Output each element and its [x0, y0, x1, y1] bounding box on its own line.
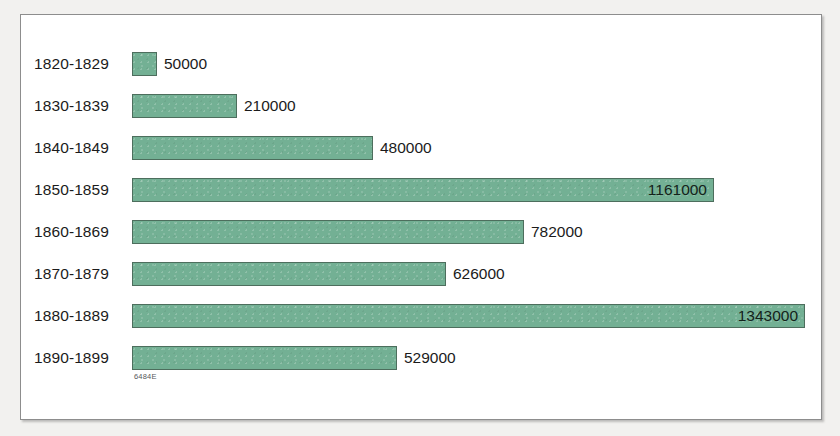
bar [132, 220, 524, 244]
chart-row: 1880-18891343000 [21, 304, 821, 328]
category-label: 1880-1889 [34, 304, 127, 328]
bar-value-label: 480000 [380, 136, 432, 160]
chart-row: 1840-1849480000 [21, 136, 821, 160]
chart-row: 1820-182950000 [21, 52, 821, 76]
chart-row: 1860-1869782000 [21, 220, 821, 244]
bar [132, 304, 805, 328]
bar [132, 346, 397, 370]
category-label: 1830-1839 [34, 94, 127, 118]
category-label: 1840-1849 [34, 136, 127, 160]
category-label: 1860-1869 [34, 220, 127, 244]
bar-value-label: 1343000 [738, 304, 798, 328]
bar-value-label: 210000 [244, 94, 296, 118]
bar-chart-plot: 1820-1829500001830-18392100001840-184948… [21, 15, 821, 419]
bar-value-label: 626000 [453, 262, 505, 286]
chart-frame: 1820-1829500001830-18392100001840-184948… [20, 14, 822, 420]
category-label: 1890-1899 [34, 346, 127, 370]
bar-value-label: 782000 [531, 220, 583, 244]
chart-row: 1890-1899529000 [21, 346, 821, 370]
chart-row: 1870-1879626000 [21, 262, 821, 286]
bar [132, 52, 157, 76]
bar-value-label: 529000 [404, 346, 456, 370]
bar [132, 94, 237, 118]
bar [132, 136, 373, 160]
chart-row: 1850-18591161000 [21, 178, 821, 202]
bar [132, 178, 714, 202]
chart-row: 1830-1839210000 [21, 94, 821, 118]
bar-value-label: 50000 [164, 52, 207, 76]
category-label: 1870-1879 [34, 262, 127, 286]
chart-source-code: 6484E [134, 372, 157, 381]
category-label: 1820-1829 [34, 52, 127, 76]
category-label: 1850-1859 [34, 178, 127, 202]
bar-value-label: 1161000 [648, 178, 707, 202]
bar [132, 262, 446, 286]
